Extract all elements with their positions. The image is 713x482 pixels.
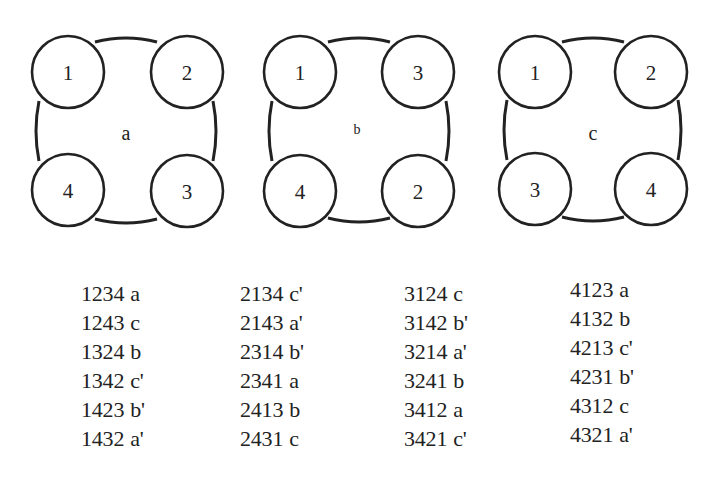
- permutation-column-4: 4123a 4132b 4213c' 4231b' 4312c 4321a': [570, 275, 634, 449]
- permutation-row: 3241b: [404, 366, 468, 395]
- arrangement-type: a': [289, 310, 302, 335]
- permutation: 1342: [81, 368, 124, 393]
- permutation: 2413: [240, 397, 283, 422]
- permutation-row: 2413b: [240, 395, 304, 424]
- diagram-b: 1 3 4 2 b: [264, 36, 454, 227]
- seat-number: 3: [530, 178, 541, 202]
- arrangement-type: c': [453, 426, 466, 451]
- seat-circle-bottom-left: 4: [32, 154, 104, 226]
- permutation-row: 1432a': [81, 424, 145, 453]
- seat-circle-top-right: 2: [151, 36, 223, 108]
- arrangement-type: b': [619, 364, 634, 389]
- permutation: 4321: [570, 422, 613, 447]
- arrangement-type: c: [130, 310, 140, 335]
- permutation-row: 2341a: [240, 366, 304, 395]
- arrangement-type: a: [289, 368, 299, 393]
- permutation: 2143: [240, 310, 283, 335]
- arrangement-type: a': [453, 339, 466, 364]
- arrangement-type: c: [289, 426, 299, 451]
- permutation: 1324: [81, 339, 124, 364]
- seat-number: 2: [413, 180, 424, 204]
- seating-diagrams: 1 2 4 3 a 1 3 4 2: [0, 0, 713, 250]
- permutation: 4132: [570, 306, 613, 331]
- permutation: 3412: [404, 397, 447, 422]
- seat-number: 3: [413, 61, 424, 85]
- seat-number: 3: [182, 180, 193, 204]
- arrangement-type: b: [130, 339, 141, 364]
- arrangement-type: a': [130, 426, 143, 451]
- permutation-row: 1234a: [81, 279, 145, 308]
- permutation-row: 3124c: [404, 279, 468, 308]
- arrangement-type: c': [289, 281, 302, 306]
- permutation: 3421: [404, 426, 447, 451]
- permutation-row: 1423b': [81, 395, 145, 424]
- seat-circle-bottom-right: 4: [615, 153, 687, 225]
- arrangement-type: a': [619, 422, 632, 447]
- permutation: 3214: [404, 339, 447, 364]
- arrangement-type: c: [453, 281, 463, 306]
- arrangement-type: b': [453, 310, 468, 335]
- permutation: 2431: [240, 426, 283, 451]
- seat-number: 2: [182, 61, 193, 85]
- permutation: 1243: [81, 310, 124, 335]
- diagram-label: b: [354, 122, 361, 137]
- seat-circle-top-right: 3: [382, 36, 454, 108]
- permutation: 3124: [404, 281, 447, 306]
- arrangement-type: a: [619, 277, 629, 302]
- permutation-row: 2314b': [240, 337, 304, 366]
- arrangement-type: b': [289, 339, 304, 364]
- permutation-row: 4312c: [570, 391, 634, 420]
- permutation: 4213: [570, 335, 613, 360]
- seat-circle-top-left: 1: [499, 36, 571, 108]
- permutation-column-3: 3124c 3142b' 3214a' 3241b 3412a 3421c': [404, 279, 468, 453]
- seat-number: 1: [530, 61, 541, 85]
- arrangement-type: c': [619, 335, 632, 360]
- seat-circle-bottom-right: 3: [151, 155, 223, 227]
- permutation-column-2: 2134c' 2143a' 2314b' 2341a 2413b 2431c: [240, 279, 304, 453]
- permutation: 4231: [570, 364, 613, 389]
- seat-circle-bottom-left: 4: [264, 155, 336, 227]
- permutation: 4312: [570, 393, 613, 418]
- permutation-column-1: 1234a 1243c 1324b 1342c' 1423b' 1432a': [81, 279, 145, 453]
- permutation-row: 1324b: [81, 337, 145, 366]
- arrangement-type: a: [453, 397, 463, 422]
- seat-number: 4: [295, 180, 306, 204]
- seat-number: 4: [63, 179, 74, 203]
- diagram-c: 1 2 3 4 c: [499, 36, 687, 225]
- permutation: 2341: [240, 368, 283, 393]
- permutation-row: 3412a: [404, 395, 468, 424]
- arrangement-type: a: [130, 281, 140, 306]
- seat-circle-bottom-right: 2: [382, 155, 454, 227]
- permutation-row: 2134c': [240, 279, 304, 308]
- arrangement-type: b: [453, 368, 464, 393]
- seat-number: 1: [295, 61, 306, 85]
- permutation-row: 1342c': [81, 366, 145, 395]
- permutation: 1432: [81, 426, 124, 451]
- permutation: 2314: [240, 339, 283, 364]
- diagram-a: 1 2 4 3 a: [32, 36, 223, 227]
- permutation: 1423: [81, 397, 124, 422]
- permutation: 2134: [240, 281, 283, 306]
- permutation-row: 4231b': [570, 362, 634, 391]
- seat-circle-top-left: 1: [264, 36, 336, 108]
- diagram-label: a: [122, 122, 131, 144]
- permutation-row: 4213c': [570, 333, 634, 362]
- seat-number: 1: [63, 61, 74, 85]
- permutation-row: 1243c: [81, 308, 145, 337]
- permutation-row: 4321a': [570, 420, 634, 449]
- diagram-label: c: [589, 122, 598, 144]
- permutation: 1234: [81, 281, 124, 306]
- permutation-row: 3421c': [404, 424, 468, 453]
- permutation-row: 2431c: [240, 424, 304, 453]
- permutation: 3142: [404, 310, 447, 335]
- permutation-row: 4132b: [570, 304, 634, 333]
- arrangement-type: c: [619, 393, 629, 418]
- permutation-row: 3142b': [404, 308, 468, 337]
- arrangement-type: c': [130, 368, 143, 393]
- seat-number: 4: [646, 178, 657, 202]
- permutation-row: 3214a': [404, 337, 468, 366]
- arrangement-type: b: [289, 397, 300, 422]
- arrangement-type: b': [130, 397, 145, 422]
- permutation-row: 2143a': [240, 308, 304, 337]
- seat-number: 2: [646, 61, 657, 85]
